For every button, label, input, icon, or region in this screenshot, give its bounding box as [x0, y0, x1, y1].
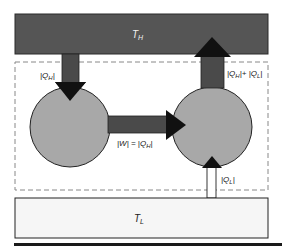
- cold-reservoir: TL: [15, 198, 268, 238]
- hot-reservoir: TH: [15, 14, 268, 54]
- q-out-label: |QH|+ |QL|: [227, 69, 262, 79]
- work-label: |W| = |QH|: [117, 139, 153, 149]
- bottom-rule: [14, 243, 282, 246]
- ql-in-label: |QL|: [221, 175, 235, 185]
- qh-in-label: |QH|: [40, 71, 55, 81]
- right-device-circle: [172, 87, 252, 167]
- heat-pump-diagram: TH |QH| |W| = |QH| |QH|+ |QL| |QL| TL: [0, 0, 282, 252]
